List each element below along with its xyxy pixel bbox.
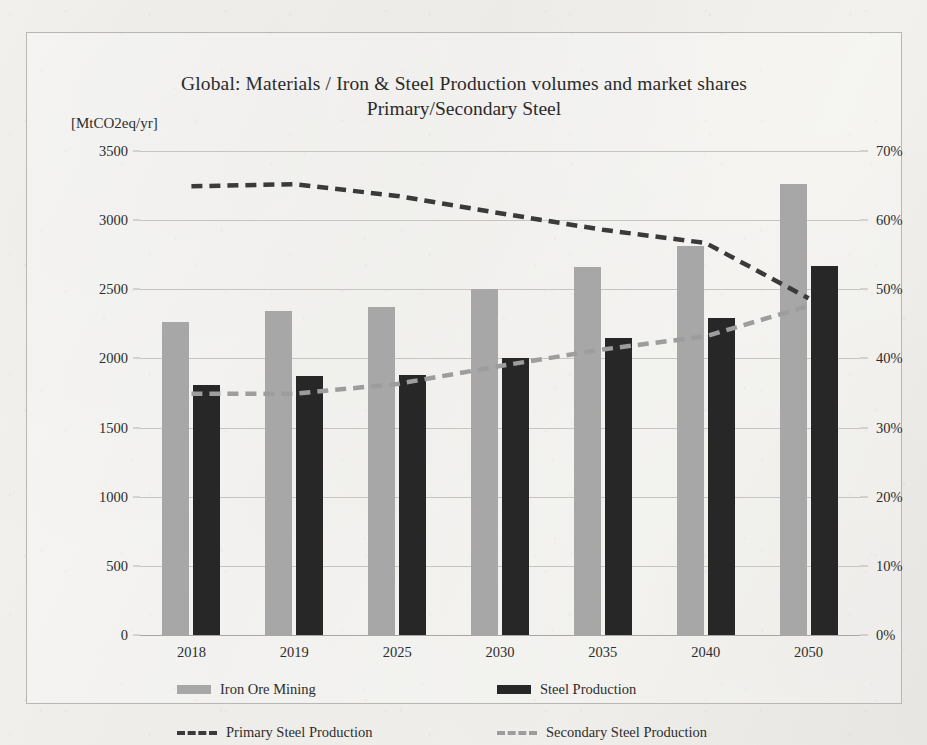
category-label: 2040: [691, 644, 720, 661]
chart-legend: Iron Ore Mining Steel Production Primary…: [177, 681, 817, 741]
right-tick-mark: [860, 220, 868, 221]
right-axis-tick-label: 70%: [876, 143, 903, 160]
legend-item-secondary-steel-production[interactable]: Secondary Steel Production: [497, 724, 817, 741]
left-axis-tick-label: 500: [106, 557, 128, 574]
legend-swatch-mining-icon: [177, 685, 211, 694]
legend-label: Primary Steel Production: [226, 724, 373, 741]
line-series-layer: [140, 151, 860, 635]
legend-item-primary-steel-production[interactable]: Primary Steel Production: [177, 724, 497, 741]
left-tick-mark: [133, 565, 140, 566]
left-axis-tick-label: 2000: [99, 350, 128, 367]
left-axis-tick-label: 3500: [99, 143, 128, 160]
legend-item-iron-ore-mining[interactable]: Iron Ore Mining: [177, 681, 497, 698]
right-axis-tick-label: 60%: [876, 212, 903, 229]
category-label: 2025: [383, 644, 412, 661]
right-tick-mark: [860, 289, 868, 290]
right-axis-tick-label: 10%: [876, 557, 903, 574]
left-tick-mark: [133, 496, 140, 497]
right-tick-mark: [860, 496, 868, 497]
right-tick-mark: [860, 427, 868, 428]
right-axis-tick-label: 0%: [876, 627, 895, 644]
left-axis-tick-label: 2500: [99, 281, 128, 298]
gridline: [140, 635, 860, 636]
category-label: 2050: [794, 644, 823, 661]
left-tick-mark: [133, 289, 140, 290]
right-axis-tick-label: 30%: [876, 419, 903, 436]
legend-label: Secondary Steel Production: [546, 724, 707, 741]
left-axis-tick-label: 0: [121, 627, 128, 644]
category-label: 2030: [486, 644, 515, 661]
legend-swatch-primary-line-icon: [177, 731, 217, 735]
left-tick-mark: [133, 427, 140, 428]
category-label: 2035: [588, 644, 617, 661]
y-axis-unit-label: [MtCO2eq/yr]: [71, 115, 158, 132]
line-secondary-steel-production: [191, 306, 808, 394]
left-axis-tick-label: 3000: [99, 212, 128, 229]
legend-swatch-steel-icon: [497, 685, 531, 694]
left-tick-mark: [133, 151, 140, 152]
legend-label: Steel Production: [540, 681, 636, 698]
chart-page: Global: Materials / Iron & Steel Product…: [0, 0, 927, 745]
right-axis-tick-label: 50%: [876, 281, 903, 298]
left-axis-tick-label: 1000: [99, 488, 128, 505]
left-tick-mark: [133, 635, 140, 636]
right-axis-tick-label: 20%: [876, 488, 903, 505]
legend-label: Iron Ore Mining: [220, 681, 316, 698]
left-axis-tick-label: 1500: [99, 419, 128, 436]
line-primary-steel-production: [191, 184, 808, 298]
plot-area: 0500100015002000250030003500 0%10%20%30%…: [140, 151, 860, 635]
right-tick-mark: [860, 565, 868, 566]
right-tick-mark: [860, 151, 868, 152]
right-tick-mark: [860, 635, 868, 636]
left-tick-mark: [133, 358, 140, 359]
chart-frame: Global: Materials / Iron & Steel Product…: [26, 32, 902, 704]
legend-item-steel-production[interactable]: Steel Production: [497, 681, 817, 698]
category-label: 2018: [177, 644, 206, 661]
category-label: 2019: [280, 644, 309, 661]
right-axis-tick-label: 40%: [876, 350, 903, 367]
chart-subtitle: Primary/Secondary Steel: [27, 98, 901, 120]
legend-swatch-secondary-line-icon: [497, 731, 537, 735]
right-tick-mark: [860, 358, 868, 359]
left-tick-mark: [133, 220, 140, 221]
chart-title: Global: Materials / Iron & Steel Product…: [27, 73, 901, 95]
